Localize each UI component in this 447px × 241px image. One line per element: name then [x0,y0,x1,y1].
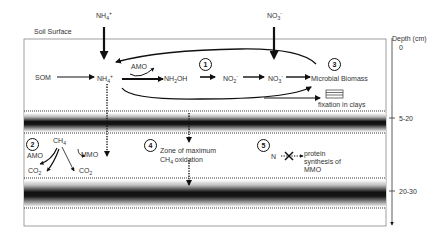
diagram-canvas [0,0,447,241]
depth-tick-20-30: 20-30 [399,188,417,196]
n-label: N [271,153,276,161]
no2-label: NO2- [223,75,238,83]
marker-2: 2 [26,138,39,151]
zone-line-1: Zone of maximum [160,147,216,155]
band-5-20 [24,111,386,133]
soil-surface-label: Soil Surface [34,28,72,36]
biomass-to-nh4-arc [116,49,316,64]
amo-label-low: AMO [27,152,43,160]
nh2oh-label: NH2OH [164,75,187,83]
co2-left-label: CO2 [28,167,41,175]
nh4-label: NH4+ [97,75,113,83]
nh4-input-label: NH4+ [96,12,112,20]
fixation-in-clays-label: fixation in clays [318,101,365,109]
no3-label: NO3- [268,75,283,83]
protein-line-1: protein [304,150,325,158]
depth-axis [389,38,395,225]
depth-tick-0: 0 [399,44,403,52]
mmo-label: MMO [81,151,98,159]
som-label: SOM [35,74,51,82]
marker-5: 5 [257,139,270,152]
marker-1: 1 [199,58,212,71]
protein-line-2: synthesis of [304,158,341,166]
protein-line-3: MMO [304,166,321,174]
depth-axis-title: Depth (cm) [392,35,427,43]
depth-tick-5-20: 5-20 [399,115,413,123]
band-20-30 [24,178,386,208]
nh4-to-biomass-arc [122,87,311,99]
co2-right-label: CO2 [79,167,92,175]
zone-line-2: CH4 oxidation [160,156,203,164]
clay-symbol-icon [326,90,343,98]
marker-4: 4 [144,139,157,152]
ch4-label: CH4 [53,137,66,145]
no3-input-label: NO3- [267,12,282,20]
microbial-biomass-label: Microbial Biomass [311,75,368,83]
marker-3: 3 [328,58,341,71]
amo-label-top: AMO [131,63,147,71]
ch4-to-co2-mmo-arrow [62,147,74,171]
